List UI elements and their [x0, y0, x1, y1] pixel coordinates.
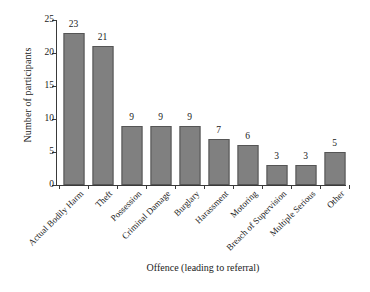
bar: [121, 126, 142, 185]
bar: [63, 33, 84, 185]
y-axis-tick-label: 10: [45, 112, 55, 125]
bar-value-label: 6: [245, 131, 250, 142]
bar-value-label: 9: [158, 112, 163, 123]
bar-value-label: 21: [98, 32, 108, 43]
bar-slot: 23: [59, 20, 88, 185]
y-axis-tick-label: 0: [49, 178, 54, 191]
bar-value-label: 3: [274, 151, 279, 162]
y-axis-title: Number of participants: [22, 0, 36, 190]
y-axis-tick-label: 5: [49, 145, 54, 158]
y-axis-tick-label: 25: [45, 13, 55, 26]
y-axis-line: [56, 20, 57, 186]
y-axis-tick-label: 20: [45, 46, 55, 59]
bar-slot: 9: [117, 20, 146, 185]
bar-value-label: 23: [69, 19, 79, 30]
x-axis-tick: [59, 185, 60, 189]
bar-slot: 3: [262, 20, 291, 185]
bar-value-label: 9: [129, 112, 134, 123]
y-axis-tick-label: 15: [45, 79, 55, 92]
bar-chart: Number of participants 0510152025 232199…: [0, 0, 370, 292]
bar-value-label: 7: [216, 125, 221, 136]
x-axis-title: Offence (leading to referral): [57, 262, 349, 273]
bar-value-label: 9: [187, 112, 192, 123]
bar-slot: 7: [204, 20, 233, 185]
bar-slot: 9: [146, 20, 175, 185]
